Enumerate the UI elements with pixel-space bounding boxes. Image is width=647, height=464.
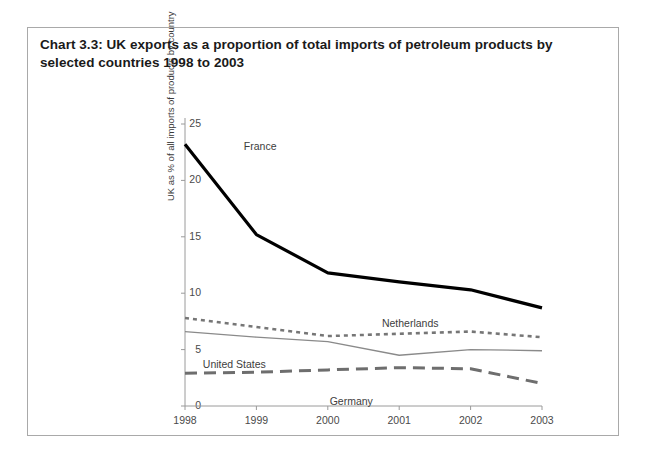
series-label-netherlands: Netherlands [382, 317, 439, 329]
chart-figure-frame: Chart 3.3: UK exports as a proportion of… [27, 27, 619, 436]
plot-area: UK as % of all imports of products by co… [173, 96, 546, 436]
series-line-germany [185, 368, 542, 384]
chart-title: Chart 3.3: UK exports as a proportion of… [40, 36, 608, 72]
series-line-netherlands [185, 318, 542, 337]
series-label-united-states: United States [203, 358, 266, 370]
series-label-france: France [244, 140, 277, 152]
line-chart-svg [173, 96, 546, 436]
series-line-france [185, 144, 542, 308]
series-label-germany: Germany [330, 395, 373, 407]
